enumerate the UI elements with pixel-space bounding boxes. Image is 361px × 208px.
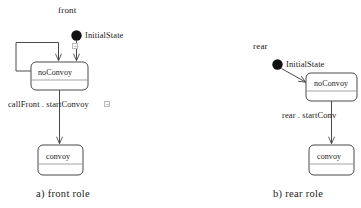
front-transition-label: callFront . startConvoy (8, 100, 89, 109)
front-state-noconvoy-label: noConvoy (38, 69, 72, 77)
note-icon-transition[interactable] (104, 101, 110, 107)
rear-diagram-title: rear (253, 42, 268, 51)
figure-canvas: front InitialState noConvoy callFront . … (0, 0, 361, 208)
front-initial-state-label: InitialState (85, 31, 124, 40)
rear-state-noconvoy-label: noConvoy (314, 80, 348, 88)
rear-state-convoy-label: convoy (317, 153, 341, 161)
front-caption: a) front role (36, 189, 90, 200)
rear-initial-state-icon (272, 59, 282, 69)
rear-initial-state-label: InitialState (286, 60, 325, 69)
note-icon-initial[interactable] (72, 43, 78, 49)
rear-caption: b) rear role (273, 189, 323, 200)
rear-transition-initial-to-noconvoy (282, 69, 306, 83)
rear-transition-label: rear . startConv (282, 111, 336, 120)
front-state-convoy-label: convoy (46, 153, 70, 161)
front-initial-state-icon (71, 30, 81, 40)
front-diagram-title: front (58, 6, 77, 15)
